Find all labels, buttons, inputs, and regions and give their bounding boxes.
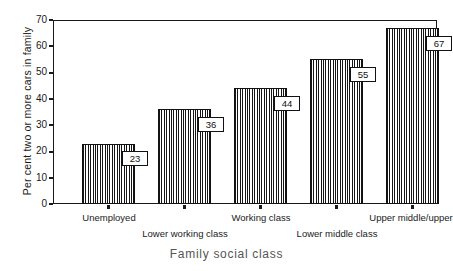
value-label-lower-middle-class: 55 xyxy=(350,67,376,82)
x-tick-mark-unemployed xyxy=(107,205,110,209)
x-tick-mark-lower-working-class xyxy=(183,205,186,209)
bar-upper-middle-upper xyxy=(386,28,439,204)
x-tick-label-working-class: Working class xyxy=(232,212,291,223)
y-tick-label-20: 20 xyxy=(27,145,47,156)
x-tick-mark-upper-middle-upper xyxy=(411,205,414,209)
bars-layer xyxy=(53,20,437,204)
x-tick-label-lower-middle-class: Lower middle class xyxy=(297,228,378,239)
y-tick-label-0: 0 xyxy=(27,198,47,209)
x-axis-title: Family social class xyxy=(0,247,453,261)
x-tick-mark-lower-middle-class xyxy=(335,205,338,209)
value-label-lower-working-class: 36 xyxy=(198,117,224,132)
x-tick-mark-working-class xyxy=(259,205,262,209)
value-label-working-class: 44 xyxy=(274,96,300,111)
y-tick-label-40: 40 xyxy=(27,93,47,104)
x-tick-label-upper-middle-upper: Upper middle/upper xyxy=(369,212,452,223)
bar-chart: Per cent two or more cars in family 70 6… xyxy=(0,0,453,271)
value-label-unemployed: 23 xyxy=(122,151,148,166)
y-tick-label-70: 70 xyxy=(27,14,47,25)
x-tick-label-lower-working-class: Lower working class xyxy=(142,228,228,239)
value-label-upper-middle-upper: 67 xyxy=(426,36,452,51)
x-tick-label-unemployed: Unemployed xyxy=(82,212,135,223)
y-tick-label-50: 50 xyxy=(27,66,47,77)
y-tick-label-10: 10 xyxy=(27,172,47,183)
y-tick-label-30: 30 xyxy=(27,119,47,130)
y-tick-label-60: 60 xyxy=(27,40,47,51)
